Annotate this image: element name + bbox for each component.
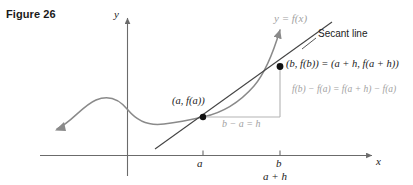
rise-label: f(b) − f(a) = f(a + h) − f(a)	[292, 84, 396, 94]
figure-container: Figure 26 y	[0, 0, 413, 185]
run-label: b − a = h	[222, 118, 261, 129]
point-b-marker	[277, 63, 284, 70]
secant-label-leader	[302, 38, 316, 49]
y-axis-label: y	[114, 8, 119, 20]
x-tick-label-a: a	[197, 157, 203, 169]
x-axis-label: x	[376, 155, 381, 167]
secant-line-label: Secant line	[318, 28, 367, 39]
x-tick-label-b: b	[276, 157, 282, 169]
curve-function-label: y = f(x)	[274, 12, 307, 24]
curve-left-arrowhead	[55, 122, 66, 131]
point-b-label: (b, f(b)) = (a + h, f(a + h))	[286, 58, 399, 69]
x-tick-label-a-plus-h: a + h	[263, 170, 287, 182]
point-a-label: (a, f(a))	[172, 95, 205, 106]
point-a-marker	[200, 114, 206, 120]
function-curve	[57, 30, 280, 129]
